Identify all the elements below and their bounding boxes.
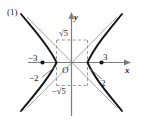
vertex-right-label: 2 <box>101 79 106 88</box>
origin-label: O <box>62 66 69 75</box>
y-axis-label: y <box>74 13 78 22</box>
item-number-label: (1) <box>7 8 18 17</box>
vertex-left-label: −2 <box>29 74 39 83</box>
focus-left-label: −3 <box>28 54 38 63</box>
focus-right-label: 3 <box>103 53 108 62</box>
hyperbola-figure: (1) y x O −3 3 −2 2 √5 −√5 <box>0 0 143 126</box>
top-intercept-label: √5 <box>59 29 68 38</box>
focus-left-dot <box>40 60 44 64</box>
bottom-intercept-label: −√5 <box>52 87 66 96</box>
x-axis-label: x <box>125 66 130 75</box>
figure-canvas <box>0 0 143 126</box>
